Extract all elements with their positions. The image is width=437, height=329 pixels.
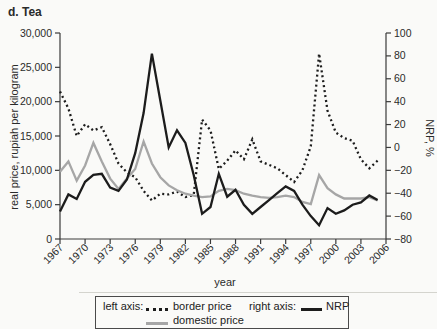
right-axis-tick-label: −20 — [394, 164, 412, 176]
right-axis-tick-label: 0 — [394, 141, 400, 153]
right-axis-tick-label: 20 — [394, 118, 406, 130]
x-axis-tick-label: 1997 — [291, 241, 316, 266]
legend: left axis: border price right axis: NRP … — [95, 296, 349, 329]
nrp-line-sample — [301, 308, 322, 311]
x-axis-tick-label: 1988 — [216, 241, 241, 266]
x-axis-tick-label: 2003 — [341, 241, 366, 266]
domestic-price-line-sample — [146, 322, 168, 325]
left-axis-tick-label: 0 — [46, 233, 52, 245]
x-axis-tick-label: 1973 — [91, 241, 116, 266]
left-axis-tick-label: 30,000 — [20, 27, 52, 39]
left-axis-tick-label: 20,000 — [20, 95, 52, 107]
right-axis-tick-label: 60 — [394, 72, 406, 84]
right-axis-tick-label: 80 — [394, 49, 406, 61]
legend-right-axis-caption: right axis: — [249, 300, 296, 312]
x-axis-tick-label: 2006 — [366, 241, 391, 266]
legend-nrp-label: NRP — [326, 300, 349, 312]
right-axis-tick-label: 100 — [394, 27, 412, 39]
border-price-line-sample — [146, 308, 168, 311]
x-axis-tick-label: 1979 — [141, 241, 166, 266]
x-axis-tick-label: 1970 — [65, 241, 90, 266]
page-rule-line — [79, 292, 437, 293]
legend-border-price-label: border price — [173, 300, 232, 312]
left-axis-tick-label: 25,000 — [20, 61, 52, 73]
left-axis-tick-label: 15,000 — [20, 130, 52, 142]
legend-domestic-price-label: domestic price — [173, 314, 244, 326]
x-axis-tick-label: 1967 — [40, 241, 65, 266]
x-axis-tick-label: 1982 — [166, 241, 191, 266]
x-axis-tick-label: 1985 — [191, 241, 216, 266]
x-axis-tick-label: 1994 — [266, 241, 291, 266]
right-axis-tick-label: 40 — [394, 95, 406, 107]
x-axis-tick-label: 1991 — [241, 241, 266, 266]
right-axis-tick-label: −80 — [394, 233, 412, 245]
left-axis-tick-label: 5,000 — [26, 198, 52, 210]
left-axis-tick-label: 10,000 — [20, 164, 52, 176]
x-axis-tick-label: 1976 — [116, 241, 141, 266]
right-axis-tick-label: −60 — [394, 210, 412, 222]
x-axis-tick-label: 2000 — [316, 241, 341, 266]
right-axis-tick-label: −40 — [394, 187, 412, 199]
legend-left-axis-caption: left axis: — [103, 300, 143, 312]
